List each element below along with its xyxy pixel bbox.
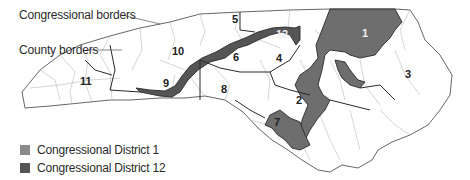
county-borders-callout: County borders [19, 43, 98, 57]
district-label-11: 11 [80, 75, 92, 87]
district-label-8: 8 [221, 83, 227, 95]
legend-item-district-12: Congressional District 12 [20, 159, 165, 177]
district-label-1: 1 [362, 27, 368, 39]
district-label-6: 6 [233, 51, 239, 63]
district-label-3: 3 [405, 68, 411, 80]
district-label-7: 7 [274, 116, 280, 128]
district-label-10: 10 [172, 45, 184, 57]
district-label-4: 4 [276, 52, 283, 64]
district-label-9: 9 [163, 77, 169, 89]
district-label-2: 2 [296, 94, 302, 106]
district-label-5: 5 [232, 13, 238, 25]
legend-label-district-12: Congressional District 12 [37, 161, 165, 175]
legend-item-district-1: Congressional District 1 [20, 141, 165, 159]
district-12-swatch [20, 163, 30, 173]
district-label-12: 12 [276, 28, 288, 40]
congressional-borders-callout: Congressional borders [19, 8, 136, 22]
legend-label-district-1: Congressional District 1 [37, 143, 159, 157]
district-1-swatch [20, 145, 30, 155]
legend: Congressional District 1 Congressional D… [20, 141, 165, 177]
